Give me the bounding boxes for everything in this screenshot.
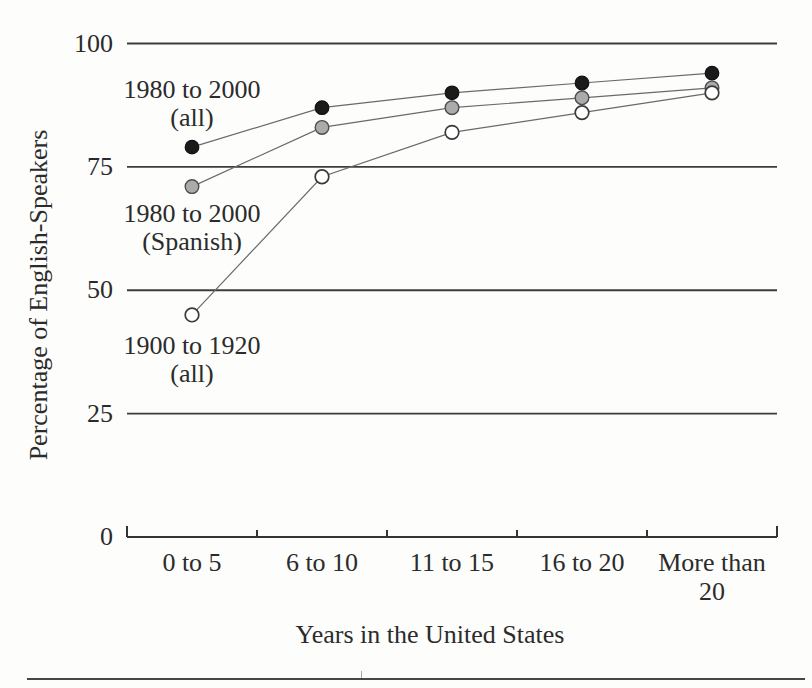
x-tick-label-11-to-15: 11 to 15 <box>384 548 520 577</box>
annotation-1980-2000-spanish: 1980 to 2000 (Spanish) <box>82 200 302 256</box>
data-point-1980-to-2000-all- <box>575 76 589 90</box>
annotation-line: (all) <box>82 104 302 132</box>
data-point-1980-to-2000-all- <box>185 140 199 154</box>
annotation-1900-1920-all: 1900 to 1920 (all) <box>82 332 302 388</box>
data-point-1980-to-2000-spanish- <box>185 180 199 194</box>
y-axis-title: Percentage of English-Speakers <box>24 130 54 461</box>
data-point-1980-to-2000-spanish- <box>575 91 589 105</box>
data-point-1900-to-1920-all- <box>185 308 199 322</box>
annotation-line: 1980 to 2000 <box>82 76 302 104</box>
annotation-line: 1980 to 2000 <box>82 200 302 228</box>
annotation-line: 1900 to 1920 <box>82 332 302 360</box>
x-tick-label-6-to-10: 6 to 10 <box>254 548 390 577</box>
y-tick-label-100: 100 <box>33 29 113 59</box>
annotation-line: (Spanish) <box>82 228 302 256</box>
data-point-1980-to-2000-spanish- <box>315 121 329 135</box>
footer-divider-rule <box>27 678 805 680</box>
y-tick-label-0: 0 <box>33 522 113 552</box>
x-tick-label-More-than-20: More than 20 <box>644 548 780 606</box>
annotation-1980-2000-all: 1980 to 2000 (all) <box>82 76 302 132</box>
annotation-line: (all) <box>82 360 302 388</box>
data-point-1980-to-2000-all- <box>315 101 329 115</box>
data-point-1980-to-2000-all- <box>705 66 719 80</box>
x-tick-label-16-to-20: 16 to 20 <box>514 548 650 577</box>
data-point-1900-to-1920-all- <box>575 106 589 120</box>
x-axis-title: Years in the United States <box>296 620 565 650</box>
x-tick-label-0-to-5: 0 to 5 <box>124 548 260 577</box>
scan-artifact-tick <box>361 671 362 678</box>
data-point-1900-to-1920-all- <box>315 170 329 184</box>
figure-page: 1007550250 0 to 56 to 1011 to 1516 to 20… <box>0 0 812 688</box>
data-point-1900-to-1920-all- <box>705 86 719 100</box>
data-point-1980-to-2000-spanish- <box>445 101 459 115</box>
data-point-1980-to-2000-all- <box>445 86 459 100</box>
data-point-1900-to-1920-all- <box>445 126 459 140</box>
